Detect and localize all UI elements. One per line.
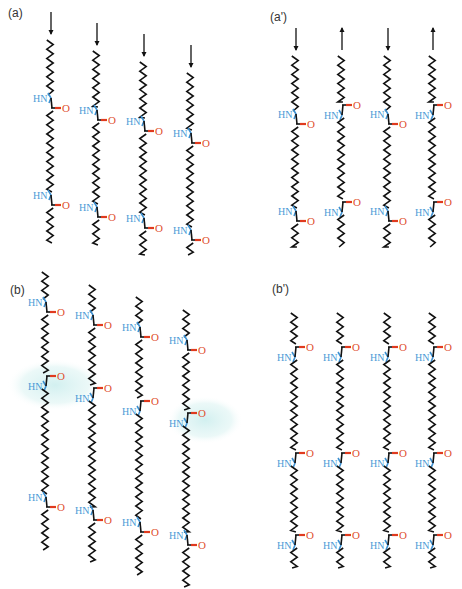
nh-label: HN: [370, 109, 384, 120]
oxygen-label: O: [306, 529, 314, 541]
oxygen-label: O: [57, 501, 65, 513]
nh-label: HN: [79, 202, 93, 213]
nh-label: HN: [415, 207, 429, 218]
chain-b-prime-3: HNOHNOHNO: [370, 313, 407, 568]
amide-group: HNO: [75, 310, 112, 332]
nh-label: HN: [126, 116, 140, 127]
nh-label: HN: [278, 109, 292, 120]
nh-label: HN: [28, 381, 42, 392]
oxygen-label: O: [198, 344, 206, 356]
nh-label: HN: [75, 310, 89, 321]
arrow-down-icon: [142, 34, 147, 57]
oxygen-label: O: [444, 529, 452, 541]
chain-b-2: HNOHNOHNO: [75, 285, 112, 562]
oxygen-label: O: [198, 539, 206, 551]
oxygen-label: O: [202, 137, 210, 149]
amide-group: HNO: [278, 206, 315, 228]
oxygen-label: O: [399, 341, 407, 353]
amide-group: HNO: [33, 93, 70, 115]
nh-label: HN: [277, 540, 291, 551]
oxygen-label: O: [104, 319, 112, 331]
oxygen-label: O: [62, 102, 70, 114]
oxygen-label: O: [202, 234, 210, 246]
oxygen-label: O: [399, 215, 407, 227]
nh-label: HN: [75, 393, 89, 404]
nh-label: HN: [323, 458, 337, 469]
arrow-down-icon: [95, 23, 100, 46]
oxygen-label: O: [352, 447, 360, 459]
arrow-down-icon: [189, 45, 194, 68]
nh-label: HN: [122, 517, 136, 528]
amide-group: HNO: [75, 505, 112, 527]
oxygen-label: O: [108, 114, 116, 126]
chain-b-4: HNOHNOHNO: [169, 310, 206, 587]
oxygen-label: O: [151, 526, 159, 538]
nh-label: HN: [370, 458, 384, 469]
oxygen-label: O: [352, 341, 360, 353]
amide-group: HNO: [122, 395, 159, 417]
nh-label: HN: [323, 352, 337, 363]
arrow-down-icon: [386, 28, 391, 51]
nh-label: HN: [173, 128, 187, 139]
polyamide-chain-diagram: HNOHNOHNOHNOHNOHNOHNOHNOHNOHNOHNOHNOHNOH…: [0, 0, 462, 589]
oxygen-label: O: [353, 99, 361, 111]
nh-label: HN: [169, 530, 183, 541]
chain-a-prime-3: HNOHNO: [370, 28, 407, 247]
chain-b-1: HNOHNOHNO: [28, 272, 65, 550]
oxygen-label: O: [399, 447, 407, 459]
oxygen-label: O: [155, 222, 163, 234]
oxygen-label: O: [62, 199, 70, 211]
nh-label: HN: [122, 406, 136, 417]
nh-label: HN: [122, 322, 136, 333]
oxygen-label: O: [306, 447, 314, 459]
nh-label: HN: [33, 93, 47, 104]
oxygen-label: O: [108, 211, 116, 223]
nh-label: HN: [277, 458, 291, 469]
oxygen-label: O: [352, 529, 360, 541]
oxygen-label: O: [399, 118, 407, 130]
oxygen-label: O: [198, 407, 206, 419]
nh-label: HN: [79, 105, 93, 116]
oxygen-label: O: [399, 529, 407, 541]
arrow-up-icon: [431, 27, 436, 50]
amide-group: HNO: [169, 530, 206, 552]
nh-label: HN: [324, 110, 338, 121]
amide-group: HNO: [122, 322, 159, 344]
oxygen-label: O: [306, 341, 314, 353]
nh-label: HN: [370, 352, 384, 363]
chain-a-2: HNOHNO: [79, 23, 116, 245]
chain-a-prime-1: HNOHNO: [278, 28, 315, 247]
amide-group: HNO: [173, 128, 210, 150]
nh-label: HN: [415, 110, 429, 121]
oxygen-label: O: [104, 514, 112, 526]
nh-label: HN: [324, 207, 338, 218]
oxygen-label: O: [155, 125, 163, 137]
arrow-down-icon: [294, 28, 299, 51]
chain-a-4: HNOHNO: [173, 45, 210, 255]
oxygen-label: O: [444, 341, 452, 353]
amide-group: HNO: [33, 190, 70, 212]
nh-label: HN: [323, 540, 337, 551]
amide-group: HNO: [370, 109, 407, 131]
amide-group: HNO: [173, 225, 210, 247]
nh-label: HN: [173, 225, 187, 236]
nh-label: HN: [28, 297, 42, 308]
oxygen-label: O: [57, 306, 65, 318]
nh-label: HN: [33, 190, 47, 201]
amide-group: HNO: [122, 517, 159, 539]
oxygen-label: O: [151, 331, 159, 343]
arrow-up-icon: [340, 27, 345, 50]
chain-a-1: HNOHNO: [33, 12, 70, 243]
nh-label: HN: [278, 206, 292, 217]
oxygen-label: O: [444, 196, 452, 208]
chain-a-prime-2: HNOHNO: [324, 27, 361, 247]
nh-label: HN: [169, 335, 183, 346]
nh-label: HN: [415, 352, 429, 363]
nh-label: HN: [277, 352, 291, 363]
amide-group: HNO: [370, 206, 407, 228]
chain-b-3: HNOHNOHNO: [122, 297, 159, 575]
chain-b-prime-4: HNOHNOHNO: [415, 313, 452, 568]
amide-group: HNO: [28, 492, 65, 514]
amide-group: HNO: [79, 202, 116, 224]
oxygen-label: O: [444, 447, 452, 459]
